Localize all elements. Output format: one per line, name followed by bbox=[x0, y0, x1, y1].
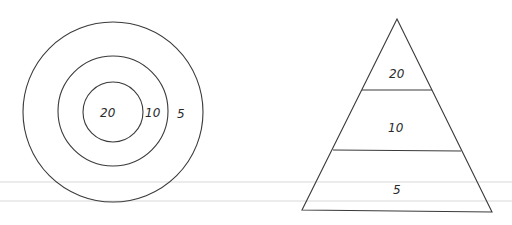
outer-ring-label: 5 bbox=[177, 107, 185, 121]
target-diagram: 20 10 5 bbox=[23, 22, 203, 202]
diagram-canvas: 20 10 5 20 10 5 bbox=[0, 0, 512, 225]
pyramid-bottom-label: 5 bbox=[393, 183, 401, 197]
pyramid-middle-label: 10 bbox=[388, 121, 404, 135]
middle-ring-label: 10 bbox=[145, 106, 161, 120]
pyramid-divider-bottom bbox=[333, 150, 461, 151]
pyramid-diagram: 20 10 5 bbox=[302, 19, 492, 212]
pyramid-top-label: 20 bbox=[389, 67, 405, 81]
inner-ring-label: 20 bbox=[100, 106, 116, 120]
